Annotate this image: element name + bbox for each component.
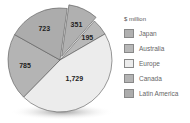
slice-value-label: 351 [71, 21, 83, 28]
legend-item-canada: Canada [124, 71, 178, 86]
legend-item-latin-america: Latin America [124, 86, 178, 101]
slice-value-label: 785 [19, 62, 31, 69]
legend-swatch [124, 44, 134, 53]
legend-swatch [124, 59, 134, 68]
legend-swatch [124, 74, 134, 83]
legend-item-japan: Japan [124, 26, 178, 41]
slice-value-label: 723 [38, 25, 50, 32]
slice-value-label: 195 [82, 34, 94, 41]
legend: $ million Japan Australia Europe Canada … [124, 16, 178, 101]
legend-label: Latin America [139, 90, 178, 97]
legend-swatch [124, 29, 134, 38]
pie-chart: 3511951,729785723 [0, 0, 125, 123]
legend-label: Europe [139, 60, 160, 67]
legend-label: Japan [139, 30, 157, 37]
legend-swatch [124, 89, 134, 98]
legend-item-europe: Europe [124, 56, 178, 71]
legend-title: $ million [124, 16, 178, 22]
legend-label: Canada [139, 75, 162, 82]
legend-label: Australia [139, 45, 164, 52]
slice-value-label: 1,729 [66, 75, 84, 83]
legend-item-australia: Australia [124, 41, 178, 56]
